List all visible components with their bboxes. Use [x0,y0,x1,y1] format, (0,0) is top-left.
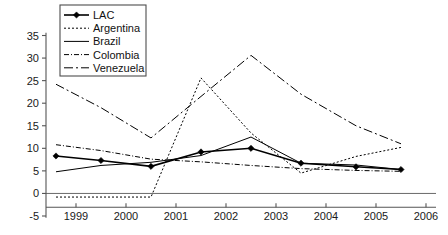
series-layer [53,55,404,197]
x-tick-label: 2001 [164,210,188,222]
x-tick-label: 2002 [214,210,238,222]
data-point-marker [53,153,59,159]
line-chart: -505101520253035 19992000200120022003200… [0,0,448,235]
y-tick-label: 15 [27,120,39,132]
x-axis: 19992000200120022003200420052006 [46,203,438,222]
legend-label-colombia: Colombia [93,49,140,61]
data-point-marker [248,145,254,151]
legend-label-lac: LAC [93,9,114,21]
data-point-marker [98,157,104,163]
data-point-marker [148,163,154,169]
y-tick-label: 0 [33,187,39,199]
chart-legend: LACArgentinaBrazilColombiaVenezuela [60,5,146,76]
series-line-argentina [56,78,401,197]
x-tick-label: 2000 [114,210,138,222]
x-tick-label: 1999 [64,210,88,222]
y-tick-label: 30 [27,52,39,64]
y-axis: -505101520253035 [27,30,46,222]
legend-label-argentina: Argentina [93,22,141,34]
x-tick-label: 2003 [264,210,288,222]
y-tick-label: 10 [27,142,39,154]
data-point-marker [198,149,204,155]
chart-canvas: -505101520253035 19992000200120022003200… [0,0,448,235]
y-tick-label: 5 [33,165,39,177]
legend-label-brazil: Brazil [93,35,121,47]
x-tick-label: 2004 [314,210,338,222]
x-tick-label: 2005 [364,210,388,222]
y-tick-label: 20 [27,97,39,109]
y-tick-label: -5 [29,210,39,222]
x-tick-label: 2006 [414,210,438,222]
y-tick-label: 35 [27,30,39,42]
y-tick-label: 25 [27,75,39,87]
legend-label-venezuela: Venezuela [93,62,145,74]
